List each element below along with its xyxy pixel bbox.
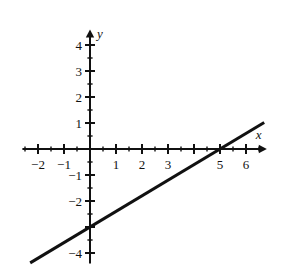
x-axis-label: x <box>256 128 262 141</box>
y-axis-label: y <box>97 27 103 40</box>
y-tick-label-2: 2 <box>76 91 83 104</box>
y-tick-label-1: 1 <box>76 117 83 130</box>
x-tick-label-neg2: −2 <box>31 158 45 171</box>
data-line <box>30 122 264 262</box>
x-axis-arrowhead <box>259 145 267 153</box>
x-tick-label-5: 5 <box>217 158 224 171</box>
y-tick-label-4: 4 <box>76 39 83 52</box>
y-axis-arrowhead <box>86 29 94 37</box>
y-tick-label-neg1: −1 <box>68 169 82 182</box>
x-tick-label-1: 1 <box>113 158 120 171</box>
y-tick-label-neg2: −2 <box>68 195 82 208</box>
y-tick-label-neg4: −4 <box>68 247 82 260</box>
x-tick-label-2: 2 <box>139 158 146 171</box>
axes-group <box>22 29 266 263</box>
coordinate-plane <box>0 0 286 279</box>
x-tick-label-3: 3 <box>165 158 172 171</box>
graph-figure: −2 −1 1 2 3 5 6 4 3 2 1 −1 −2 −4 x y <box>0 0 286 279</box>
line-segment <box>30 122 264 262</box>
x-tick-label-6: 6 <box>243 158 250 171</box>
y-tick-label-3: 3 <box>76 65 83 78</box>
